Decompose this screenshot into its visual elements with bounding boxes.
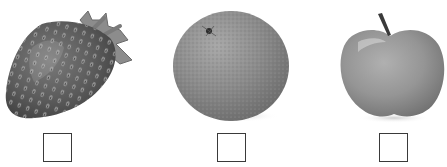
strawberry-checkbox[interactable] — [43, 133, 72, 162]
strawberry-image: strawberry — [2, 8, 137, 123]
apple-image: apple — [338, 8, 446, 124]
apple-icon — [338, 8, 446, 124]
apple-checkbox[interactable] — [379, 133, 408, 162]
strawberry-icon — [2, 8, 137, 123]
orange-icon — [172, 6, 292, 124]
orange-image: orange — [172, 6, 292, 124]
orange-checkbox[interactable] — [217, 133, 246, 162]
